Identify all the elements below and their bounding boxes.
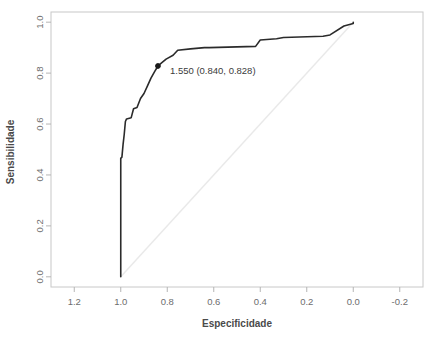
y-tick-label: 0.0	[34, 270, 45, 283]
y-tick-label: 0.8	[34, 67, 45, 80]
x-tick-label: 0.8	[161, 296, 174, 307]
x-tick-label: 0.2	[300, 296, 313, 307]
x-tick-label: 0.0	[347, 296, 360, 307]
x-tick-label: 0.6	[207, 296, 220, 307]
y-tick-label: 1.0	[34, 16, 45, 29]
x-tick-label: 1.0	[114, 296, 127, 307]
optimal-threshold-marker	[156, 64, 161, 69]
y-tick-label: 0.4	[34, 168, 45, 181]
chart-background	[0, 0, 439, 341]
y-axis-title: Sensibilidade	[5, 119, 16, 184]
roc-chart-svg: 1.21.00.80.60.40.20.0-0.2 0.00.20.40.60.…	[0, 0, 439, 341]
optimal-threshold-label: 1.550 (0.840, 0.828)	[170, 65, 256, 76]
x-tick-label: 0.4	[254, 296, 267, 307]
x-tick-label: -0.2	[392, 296, 408, 307]
x-axis-title: Especificidade	[202, 318, 272, 329]
y-tick-label: 0.2	[34, 219, 45, 232]
x-tick-label: 1.2	[68, 296, 81, 307]
threshold-point-dot	[156, 64, 161, 69]
roc-plot-container: 1.21.00.80.60.40.20.0-0.2 0.00.20.40.60.…	[0, 0, 439, 341]
y-tick-label: 0.6	[34, 117, 45, 130]
